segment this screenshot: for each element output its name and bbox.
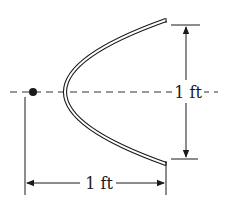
height-dimension: 1 ft <box>171 25 204 159</box>
depth-dimension: 1 ft <box>25 97 166 195</box>
parabolic-reflector-diagram: 1 ft 1 ft <box>0 0 230 202</box>
depth-label: 1 ft <box>85 174 113 193</box>
parabolic-reflector <box>65 18 166 166</box>
height-label: 1 ft <box>174 83 202 102</box>
focus-point <box>29 88 37 96</box>
